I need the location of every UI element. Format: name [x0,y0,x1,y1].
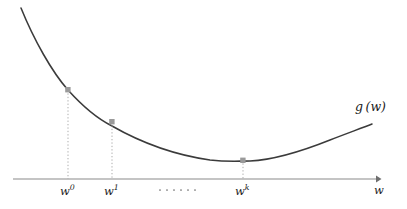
figure-gradient-descent-illustration: w0 w1 wk w g(w) [0,0,407,209]
ellipsis-dots [159,189,196,191]
tick-label-wk-base: w [235,184,245,198]
iterate-markers [65,87,245,163]
curve-label-g-of-w: g(w) [355,101,386,114]
curve-label-paren-close: ) [381,99,386,114]
x-axis-label: w [374,185,384,197]
marker-wk [240,158,245,163]
guide-lines [68,90,243,179]
tick-label-w1-superscript: 1 [114,183,119,192]
marker-w0 [65,87,70,92]
ellipsis-dot [166,189,168,191]
tick-label-wk: wk [235,184,250,197]
cost-function-curve [21,8,372,161]
curve-label-function-name: g [355,99,363,114]
ellipsis-dot [180,189,182,191]
ellipsis-dot [187,189,189,191]
tick-label-w1: w1 [104,184,119,197]
curve-label-argument: w [370,99,381,114]
ellipsis-dot [194,189,196,191]
tick-label-w0: w0 [60,184,75,197]
tick-label-wk-superscript: k [245,183,250,192]
tick-label-w0-base: w [60,184,70,198]
marker-w1 [109,119,114,124]
x-axis-arrowhead [376,176,382,183]
ellipsis-dot [159,189,161,191]
ellipsis-dot [173,189,175,191]
tick-label-w0-superscript: 0 [70,183,75,192]
figure-canvas [0,0,407,209]
tick-label-w1-base: w [104,184,114,198]
